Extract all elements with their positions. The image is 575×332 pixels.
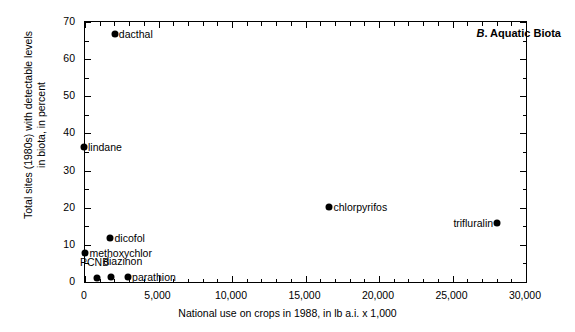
y-axis-tick-label: 70 (0, 15, 75, 27)
x-axis-minor-tick (394, 279, 395, 283)
y-axis-right-minor-tick (523, 263, 527, 264)
x-axis-top-minor-tick (320, 22, 321, 26)
y-axis-right-minor-tick (523, 115, 527, 116)
y-axis-tick-label: 30 (0, 164, 75, 176)
x-axis-top-minor-tick (467, 22, 468, 26)
data-point-label: parathion (132, 272, 176, 283)
x-axis-top-minor-tick (350, 22, 351, 26)
x-axis-minor-tick (276, 279, 277, 283)
y-axis-tick-label: 60 (0, 52, 75, 64)
data-point-marker (125, 274, 132, 281)
y-axis-minor-tick (85, 115, 89, 116)
x-axis-top-major-tick (232, 22, 233, 28)
data-point-label: diazinon (103, 256, 142, 267)
data-point-marker (81, 144, 88, 151)
y-axis-tick-label: 0 (0, 275, 75, 287)
x-axis-minor-tick (291, 279, 292, 283)
y-axis-major-tick (85, 133, 91, 134)
x-axis-tick-label: 0 (81, 289, 87, 301)
scatter-plot-figure: B. Aquatic Biota Total sites (1980s) wit… (0, 0, 575, 332)
x-axis-top-minor-tick (203, 22, 204, 26)
y-axis-right-minor-tick (523, 226, 527, 227)
data-point-label: chlorpyrifos (333, 201, 387, 212)
y-axis-right-major-tick (520, 245, 526, 246)
x-axis-top-minor-tick (394, 22, 395, 26)
x-axis-top-major-tick (453, 22, 454, 28)
x-axis-major-tick (526, 276, 527, 282)
x-axis-top-minor-tick (100, 22, 101, 26)
data-point-label: lindane (88, 142, 122, 153)
y-axis-tick-label: 40 (0, 126, 75, 138)
x-axis-major-tick (379, 276, 380, 282)
x-axis-tick-label: 20,000 (362, 289, 394, 301)
x-axis-minor-tick (188, 279, 189, 283)
y-axis-major-tick (85, 282, 91, 283)
y-axis-minor-tick (85, 189, 89, 190)
data-point-marker (94, 275, 101, 282)
data-point-marker (108, 274, 115, 281)
plot-area (84, 21, 527, 283)
x-axis-top-minor-tick (188, 22, 189, 26)
data-point-label: trifluralin (453, 218, 493, 229)
y-axis-right-minor-tick (523, 41, 527, 42)
x-axis-minor-tick (261, 279, 262, 283)
y-axis-tick-label: 50 (0, 89, 75, 101)
x-axis-minor-tick (482, 279, 483, 283)
x-axis-minor-tick (320, 279, 321, 283)
x-axis-top-minor-tick (335, 22, 336, 26)
y-axis-right-major-tick (520, 133, 526, 134)
x-axis-top-minor-tick (511, 22, 512, 26)
y-axis-right-major-tick (520, 96, 526, 97)
x-axis-top-minor-tick (497, 22, 498, 26)
x-axis-major-tick (232, 276, 233, 282)
x-axis-top-minor-tick (291, 22, 292, 26)
x-axis-top-major-tick (526, 22, 527, 28)
y-axis-right-minor-tick (523, 152, 527, 153)
x-axis-label: National use on crops in 1988, in lb a.i… (0, 307, 575, 319)
x-axis-top-minor-tick (482, 22, 483, 26)
x-axis-minor-tick (217, 279, 218, 283)
y-axis-minor-tick (85, 78, 89, 79)
y-axis-tick-label: 10 (0, 238, 75, 250)
y-axis-minor-tick (85, 41, 89, 42)
y-axis-major-tick (85, 171, 91, 172)
data-point-marker (107, 235, 114, 242)
x-axis-top-minor-tick (408, 22, 409, 26)
x-axis-top-minor-tick (423, 22, 424, 26)
data-point-label: dacthal (119, 29, 153, 40)
x-axis-minor-tick (467, 279, 468, 283)
y-axis-right-minor-tick (523, 78, 527, 79)
x-axis-top-major-tick (379, 22, 380, 28)
y-axis-major-tick (85, 96, 91, 97)
x-axis-minor-tick (408, 279, 409, 283)
x-axis-minor-tick (423, 279, 424, 283)
x-axis-top-minor-tick (364, 22, 365, 26)
y-axis-right-major-tick (520, 22, 526, 23)
x-axis-minor-tick (203, 279, 204, 283)
x-axis-top-minor-tick (114, 22, 115, 26)
x-axis-tick-label: 15,000 (288, 289, 320, 301)
x-axis-minor-tick (438, 279, 439, 283)
x-axis-top-minor-tick (247, 22, 248, 26)
data-point-marker (111, 31, 118, 38)
x-axis-top-minor-tick (217, 22, 218, 26)
x-axis-top-minor-tick (276, 22, 277, 26)
x-axis-major-tick (306, 276, 307, 282)
x-axis-major-tick (453, 276, 454, 282)
y-axis-major-tick (85, 208, 91, 209)
x-axis-minor-tick (114, 279, 115, 283)
x-axis-tick-label: 5,000 (144, 289, 170, 301)
x-axis-top-major-tick (306, 22, 307, 28)
y-axis-major-tick (85, 22, 91, 23)
x-axis-top-minor-tick (129, 22, 130, 26)
data-point-label: dicofol (114, 233, 144, 244)
x-axis-minor-tick (247, 279, 248, 283)
x-axis-top-major-tick (159, 22, 160, 28)
y-axis-right-minor-tick (523, 189, 527, 190)
y-axis-minor-tick (85, 226, 89, 227)
x-axis-top-minor-tick (261, 22, 262, 26)
x-axis-tick-label: 30,000 (509, 289, 541, 301)
x-axis-tick-label: 25,000 (435, 289, 467, 301)
y-axis-right-major-tick (520, 208, 526, 209)
x-axis-top-minor-tick (173, 22, 174, 26)
